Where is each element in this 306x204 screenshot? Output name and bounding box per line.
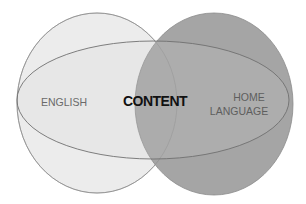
venn-diagram: ENGLISH CONTENT HOME LANGUAGE xyxy=(0,0,306,204)
home-language-label-line2: LANGUAGE xyxy=(210,105,268,117)
content-label: CONTENT xyxy=(123,93,188,109)
home-language-label-line1: HOME xyxy=(233,91,265,103)
english-label: ENGLISH xyxy=(41,96,87,108)
